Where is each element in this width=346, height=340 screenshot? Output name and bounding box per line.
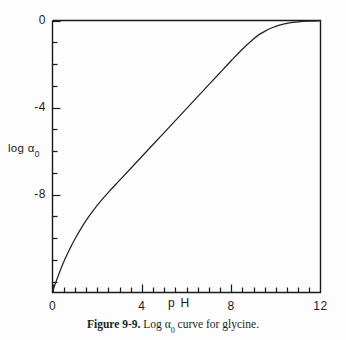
y-tick-label-minus4: -4 [14,100,46,114]
figure-container: 0 -4 -8 0 4 8 12 log α0 p H Figure 9-9. … [0,0,346,340]
axis-frame [53,21,321,293]
y-axis-title: log α0 [8,142,40,157]
x-tick-label-4: 4 [127,299,157,313]
x-axis-ticks [54,285,310,293]
x-axis-title: p H [168,296,190,310]
y-axis-title-main: log α [8,142,35,154]
caption-subscript: 0 [171,326,175,335]
x-tick-label-0: 0 [38,299,68,313]
figure-caption: Figure 9-9. Log α0 curve for glycine. [0,318,346,333]
y-axis-ticks [53,22,61,283]
plot-area: 0 -4 -8 0 4 8 12 log α0 p H [0,0,346,305]
chart-canvas [0,0,346,305]
caption-text-part1: Log α [140,318,170,330]
x-tick-label-8: 8 [216,299,246,313]
y-tick-label-minus8: -8 [14,187,46,201]
data-curve-glycine [53,21,321,292]
caption-figure-number: Figure 9-9. [87,318,140,330]
plot-frame [53,21,321,293]
x-tick-label-12: 12 [306,299,336,313]
y-axis-title-subscript: 0 [35,149,40,159]
y-tick-label-0: 0 [14,13,46,27]
caption-text-part2: curve for glycine. [175,318,259,330]
